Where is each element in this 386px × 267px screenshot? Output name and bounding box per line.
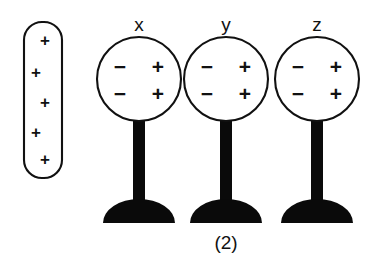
charged-rod: + + + + +	[24, 22, 62, 178]
electroscope-z-base	[281, 199, 353, 223]
figure-caption: (2)	[214, 232, 237, 253]
electroscope-y-charge-plus-top: +	[239, 55, 251, 78]
electroscope-x-charge-minus-top: −	[114, 55, 126, 78]
electroscope-z-label: z	[312, 14, 322, 35]
electroscope-y-charge-plus-bottom: +	[239, 82, 251, 105]
electroscope-y-base	[190, 199, 262, 223]
electroscope-z-charge-minus-top: −	[292, 55, 304, 78]
figure-canvas: + + + + + − + − + x − + − + y	[0, 0, 386, 267]
electroscope-x: − + − + x	[97, 14, 181, 223]
electroscope-z-charge-plus-top: +	[330, 55, 342, 78]
electroscope-x-label: x	[134, 14, 144, 35]
electroscope-y-post	[220, 118, 232, 206]
electroscope-x-charge-plus-bottom: +	[152, 82, 164, 105]
rod-charge-plus-1: +	[40, 31, 50, 50]
electroscope-z-sphere	[275, 37, 359, 121]
electroscope-y: − + − + y	[184, 14, 268, 223]
rod-charge-plus-3: +	[40, 93, 50, 112]
electroscope-z-charge-minus-bottom: −	[292, 82, 304, 105]
electroscope-y-charge-minus-bottom: −	[201, 82, 213, 105]
electroscope-y-label: y	[221, 14, 231, 35]
electroscope-y-sphere	[184, 37, 268, 121]
rod-charge-plus-4: +	[31, 123, 41, 142]
physics-figure: + + + + + − + − + x − + − + y	[0, 0, 386, 267]
electroscope-x-charge-plus-top: +	[152, 55, 164, 78]
electroscope-y-charge-minus-top: −	[201, 55, 213, 78]
rod-charge-plus-2: +	[31, 63, 41, 82]
rod-charge-plus-5: +	[40, 150, 50, 169]
electroscope-x-base	[103, 199, 175, 223]
electroscope-z: − + − + z	[275, 14, 359, 223]
electroscope-x-charge-minus-bottom: −	[114, 82, 126, 105]
electroscope-z-post	[311, 118, 323, 206]
electroscope-x-post	[133, 118, 145, 206]
electroscope-z-charge-plus-bottom: +	[330, 82, 342, 105]
electroscope-x-sphere	[97, 37, 181, 121]
